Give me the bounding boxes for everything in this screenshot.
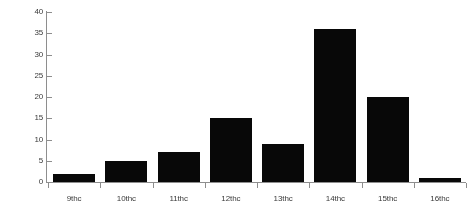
x-axis-tick <box>257 183 258 188</box>
y-axis-tick <box>47 12 52 13</box>
x-axis-tick <box>100 183 101 188</box>
x-axis-label-10thc: 10thc <box>117 194 136 203</box>
y-axis-tick <box>47 76 52 77</box>
x-axis-tick <box>362 183 363 188</box>
y-axis-tick <box>47 97 52 98</box>
x-axis-label-15thc: 15thc <box>378 194 397 203</box>
x-axis-line <box>46 182 466 183</box>
y-axis-tick-label: 20 <box>17 93 43 101</box>
bar-15thc <box>367 97 409 182</box>
x-axis-label-13thc: 13thc <box>274 194 293 203</box>
x-axis-tick <box>153 183 154 188</box>
bar-12thc <box>210 118 252 182</box>
x-axis-tick <box>205 183 206 188</box>
bar-16thc <box>419 178 461 182</box>
y-axis-tick <box>47 140 52 141</box>
y-axis-tick <box>47 55 52 56</box>
y-axis-tick <box>47 118 52 119</box>
y-axis-tick-label: 35 <box>17 29 43 37</box>
x-axis-label-14thc: 14thc <box>326 194 345 203</box>
bar-chart-figure: 0510152025303540 9thc10thc11thc12thc13th… <box>0 0 474 219</box>
x-axis-label-11thc: 11thc <box>169 194 187 203</box>
bar-10thc <box>105 161 147 182</box>
x-axis-tick <box>48 183 49 188</box>
bar-9thc <box>53 174 95 183</box>
bar-14thc <box>314 29 356 182</box>
x-axis-tick <box>309 183 310 188</box>
y-axis-tick-label: 5 <box>17 157 43 165</box>
x-axis-label-9thc: 9thc <box>67 194 82 203</box>
y-axis-tick-label: 15 <box>17 114 43 122</box>
x-axis-label-12thc: 12thc <box>221 194 240 203</box>
x-axis-tick <box>414 183 415 188</box>
y-axis-tick-label: 0 <box>17 178 43 186</box>
y-axis-tick-label: 30 <box>17 51 43 59</box>
bar-13thc <box>262 144 304 182</box>
x-axis-label-16thc: 16thc <box>430 194 449 203</box>
y-axis-tick <box>47 161 52 162</box>
y-axis-tick <box>47 33 52 34</box>
bar-11thc <box>158 152 200 182</box>
x-axis-tick <box>466 183 467 188</box>
y-axis-tick-label: 40 <box>17 8 43 16</box>
y-axis-tick-label: 25 <box>17 72 43 80</box>
y-axis-tick-label: 10 <box>17 136 43 144</box>
